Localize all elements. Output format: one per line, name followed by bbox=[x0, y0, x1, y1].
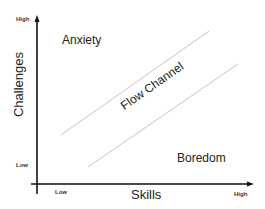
x-axis-low-label: Low bbox=[55, 189, 67, 195]
flow-diagram: High Low Challenges Low High Skills Anxi… bbox=[0, 0, 265, 209]
boredom-region-label: Boredom bbox=[177, 152, 226, 164]
y-axis-title: Challenges bbox=[12, 51, 25, 119]
x-axis-high-label: High bbox=[234, 191, 247, 197]
anxiety-region-label: Anxiety bbox=[62, 34, 101, 46]
y-axis-high-label: High bbox=[16, 16, 29, 22]
y-axis bbox=[35, 15, 40, 194]
x-axis bbox=[31, 182, 254, 187]
y-axis-low-label: Low bbox=[16, 162, 28, 168]
x-axis-arrow-icon bbox=[247, 182, 254, 187]
x-axis-title: Skills bbox=[131, 188, 161, 201]
y-axis-arrow-icon bbox=[35, 15, 40, 22]
